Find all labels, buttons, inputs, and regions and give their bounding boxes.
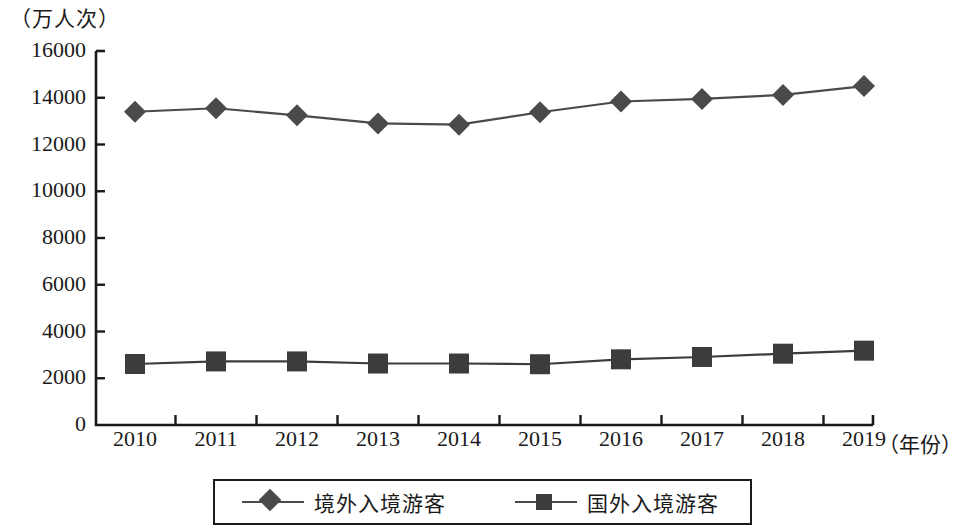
legend-label-1: 国外入境游客 <box>587 487 719 517</box>
data-series-layer <box>124 75 875 374</box>
data-point <box>854 341 874 361</box>
data-point <box>367 112 389 134</box>
legend: 境外入境游客 国外入境游客 <box>213 479 752 525</box>
legend-item-1[interactable]: 国外入境游客 <box>515 481 719 523</box>
data-point <box>205 97 227 119</box>
data-point <box>206 351 226 371</box>
legend-marker-square-icon <box>515 490 577 514</box>
data-point <box>691 88 713 110</box>
series-1 <box>125 341 874 375</box>
data-point <box>529 101 551 123</box>
data-point <box>286 104 308 126</box>
legend-marker-diamond-icon <box>242 490 304 514</box>
data-point <box>773 344 793 364</box>
legend-label-0: 境外入境游客 <box>314 487 446 517</box>
data-point <box>368 354 388 374</box>
data-point <box>772 84 794 106</box>
data-point <box>287 351 307 371</box>
data-point <box>610 90 632 112</box>
data-point <box>449 354 469 374</box>
data-point <box>448 114 470 136</box>
data-point <box>124 101 146 123</box>
data-point <box>692 347 712 367</box>
data-point <box>530 354 550 374</box>
series-0 <box>124 75 875 136</box>
legend-item-0[interactable]: 境外入境游客 <box>242 481 446 523</box>
data-point <box>125 354 145 374</box>
data-point <box>853 75 875 97</box>
data-point <box>611 349 631 369</box>
